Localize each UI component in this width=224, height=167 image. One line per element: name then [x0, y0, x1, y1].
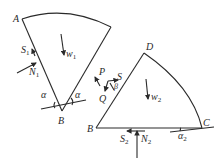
vertex-label-c: C	[203, 117, 210, 128]
force-arrow-q	[105, 81, 108, 91]
angle-label-alpha-left: α	[41, 89, 47, 100]
weight-label-w1: w1	[66, 48, 77, 61]
normal-label-n1: N1	[28, 66, 40, 79]
weight-arrow-w2	[146, 79, 148, 99]
vertex-label-d: D	[145, 41, 154, 52]
vertex-label-a: A	[12, 13, 20, 24]
force-label-s: S	[117, 71, 122, 82]
angle-label-beta: β	[113, 82, 118, 91]
normal-label-n2: N2	[140, 133, 152, 146]
force-label-q: Q	[99, 93, 107, 104]
left-block-arc	[22, 13, 111, 27]
force-label-p: P	[98, 66, 105, 77]
vertex-label-b-right: B	[87, 123, 93, 134]
angle-arc-left	[54, 102, 55, 108]
friction-label-s1: S1	[21, 44, 30, 57]
weight-label-w2: w2	[151, 91, 162, 104]
angle-arc-right	[71, 98, 73, 105]
angle-label-alpha2: α2	[178, 130, 187, 143]
right-block-edge-db	[96, 53, 144, 128]
friction-arrow-s1	[32, 49, 35, 56]
vertex-label-b-left: B	[58, 115, 64, 126]
mechanics-diagram: A B w1 S1 N1 α α P Q S β D B C w2 S2 N2 …	[0, 0, 224, 167]
left-block: A B w1 S1 N1 α α	[12, 13, 111, 126]
weight-arrow-w1	[61, 34, 64, 55]
force-arrow-p	[95, 77, 100, 86]
interface-forces: P Q S β	[95, 66, 122, 104]
angle-label-alpha-right: α	[75, 89, 81, 100]
friction-label-s2: S2	[120, 133, 129, 146]
